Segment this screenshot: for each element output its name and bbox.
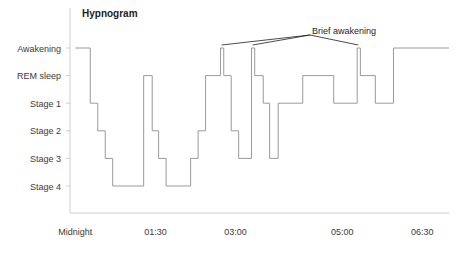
y-axis-label-stage-4: Stage 4 [30,182,61,192]
y-axis-label-awakening: Awakening [17,44,61,54]
chart-title: Hypnogram [82,8,138,19]
sleep-stage-trace [75,48,449,186]
y-axis: AwakeningREM sleepStage 1Stage 2Stage 3S… [17,8,70,213]
annotation-label: Brief awakening [312,26,376,36]
annotation-leader-1 [253,35,310,45]
brief-awakening-annotation: Brief awakening [222,26,376,45]
x-axis-label-0: Midnight [58,227,93,237]
y-axis-label-stage-3: Stage 3 [30,154,61,164]
x-axis-label-4: 06:30 [411,227,434,237]
hypnogram-chart: AwakeningREM sleepStage 1Stage 2Stage 3S… [0,0,469,256]
annotation-leader-2 [310,35,358,45]
sleep-stage-step-line [75,48,449,186]
y-axis-label-stage-1: Stage 1 [30,99,61,109]
y-axis-label-stage-2: Stage 2 [30,126,61,136]
hypnogram-plot: AwakeningREM sleepStage 1Stage 2Stage 3S… [0,0,469,256]
y-axis-label-rem-sleep: REM sleep [17,71,61,81]
x-axis-label-3: 05:00 [331,227,354,237]
x-axis: Midnight01:3003:0005:0006:30 [58,213,449,237]
x-axis-label-2: 03:00 [224,227,247,237]
annotation-leader-0 [222,35,310,45]
x-axis-label-1: 01:30 [144,227,167,237]
